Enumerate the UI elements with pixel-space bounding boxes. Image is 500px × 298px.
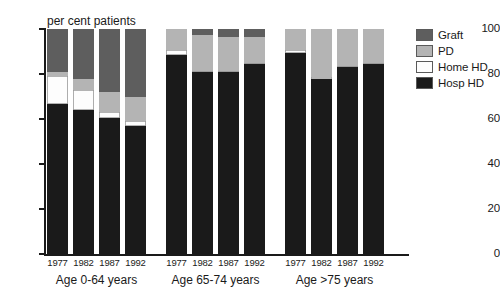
bar-segment-pd [73,79,94,90]
y-axis-tick [39,163,45,165]
legend-swatch-icon [416,77,433,89]
x-axis-tick-label: 1982 [188,258,217,268]
stacked-bar[interactable] [363,29,384,254]
plot-title: per cent patients [47,15,136,27]
y-axis-tick [39,208,45,210]
bar-segment-hosp-hd [337,67,358,254]
x-axis-tick-label: 1977 [162,258,191,268]
y-axis-tick-label: 0 [466,248,500,260]
x-axis-tick-label: 1982 [307,258,336,268]
x-axis-tick-label: 1977 [281,258,310,268]
bar-segment-graft [218,29,239,37]
y-axis-tick-label: 20 [466,203,500,215]
stacked-bar[interactable] [337,29,358,254]
bar-segment-hosp-hd [363,64,384,254]
stacked-bar[interactable] [218,29,239,254]
stacked-bar[interactable] [166,29,187,254]
bar-segment-hosp-hd [125,126,146,254]
bar-segment-hosp-hd [244,64,265,254]
bar-segment-home-hd [73,90,94,110]
bar-segment-pd [337,29,358,66]
x-axis-tick-label: 1982 [69,258,98,268]
x-axis-tick-label: 1977 [43,258,72,268]
y-axis-tick-label: 80 [466,68,500,80]
stacked-bar[interactable] [47,29,68,254]
bar-segment-pd [285,29,306,50]
bar-segment-pd [166,29,187,50]
stacked-bar[interactable] [192,29,213,254]
x-axis-tick-label: 1987 [333,258,362,268]
x-axis-tick-label: 1992 [121,258,150,268]
stacked-bar[interactable] [285,29,306,254]
bar-segment-graft [125,29,146,97]
chart-legend: GraftPDHome HDHosp HD [416,27,488,90]
y-axis-labels [0,0,38,298]
y-axis-tick [39,28,45,30]
chart-root: per cent patients GraftPDHome HDHosp HD … [0,0,500,298]
x-axis-line [44,254,409,256]
bar-segment-home-hd [47,76,68,104]
y-axis-tick-label: 60 [466,113,500,125]
x-axis-tick-label: 1992 [240,258,269,268]
bar-segment-pd [244,37,265,63]
stacked-bar[interactable] [99,29,120,254]
y-axis-tick [39,73,45,75]
bar-segment-hosp-hd [311,79,332,255]
stacked-bar[interactable] [311,29,332,254]
bar-segment-pd [99,92,120,112]
stacked-bar[interactable] [244,29,265,254]
legend-item[interactable]: PD [416,43,488,58]
legend-swatch-icon [416,29,433,41]
y-axis-tick-label: 40 [466,158,500,170]
y-axis-tick-label: 100 [466,23,500,35]
bar-segment-hosp-hd [192,72,213,254]
bar-segment-hosp-hd [73,110,94,254]
bar-segment-hosp-hd [285,53,306,254]
bar-segment-hosp-hd [99,118,120,254]
legend-label: PD [438,45,454,57]
bar-segment-pd [218,37,239,71]
bar-segment-graft [47,29,68,72]
bar-segment-hosp-hd [218,72,239,254]
y-axis-tick [39,118,45,120]
bar-segment-graft [99,29,120,92]
stacked-bar[interactable] [125,29,146,254]
group-label: Age >75 years [265,274,404,286]
x-axis-tick-label: 1987 [214,258,243,268]
x-axis-tick-label: 1992 [359,258,388,268]
legend-label: Graft [438,29,463,41]
bar-segment-hosp-hd [166,55,187,254]
x-axis-tick-label: 1987 [95,258,124,268]
bar-segment-graft [73,29,94,79]
bar-segment-hosp-hd [47,104,68,254]
bar-segment-graft [244,29,265,37]
legend-swatch-icon [416,45,433,57]
bar-segment-pd [125,97,146,122]
bar-segment-pd [311,29,332,77]
stacked-bar[interactable] [73,29,94,254]
y-axis-tick [39,253,45,255]
bar-segment-pd [192,35,213,71]
bar-segment-pd [363,29,384,63]
legend-swatch-icon [416,61,433,73]
